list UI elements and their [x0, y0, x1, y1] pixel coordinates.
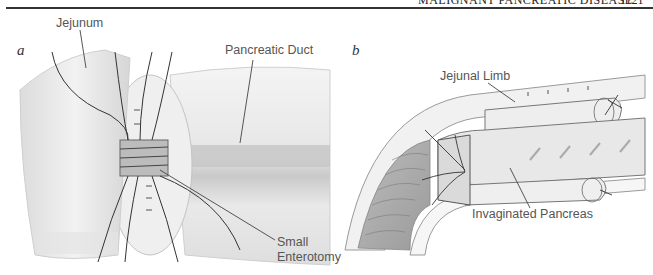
label-jejunum: Jejunum [56, 16, 103, 30]
label-jejunal-limb: Jejunal Limb [440, 69, 510, 83]
figure-illustration [0, 0, 653, 275]
panel-a-letter: a [17, 42, 25, 59]
label-small-enterotomy-1: Small [277, 235, 308, 249]
label-small-enterotomy-2: Enterotomy [277, 250, 341, 264]
panel-b-drawing [345, 75, 645, 255]
panel-b-letter: b [352, 42, 360, 59]
label-pancreatic-duct: Pancreatic Duct [225, 43, 313, 57]
panel-a-drawing [20, 30, 330, 265]
label-invaginated-pancreas: Invaginated Pancreas [472, 207, 593, 221]
